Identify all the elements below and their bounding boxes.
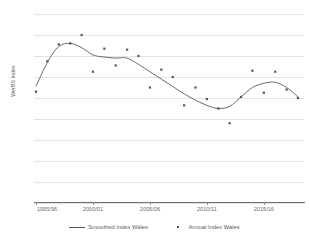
x-axis-tick (36, 202, 37, 205)
legend-label-smoothed: Smoothed Index Wales (88, 224, 148, 230)
annual-index-point (183, 104, 185, 106)
annual-index-point (103, 48, 105, 50)
legend-item-annual[interactable]: Annual Index Wales (172, 224, 240, 230)
annual-index-point (172, 76, 174, 78)
annual-index-point (286, 89, 288, 91)
annual-index-point (229, 122, 231, 124)
x-axis-tick-label: 2015/16 (254, 206, 274, 212)
legend-item-smoothed[interactable]: Smoothed Index Wales (69, 224, 148, 230)
series-layer (34, 14, 304, 203)
annual-index-point (274, 71, 276, 73)
annual-index-point (263, 92, 265, 94)
annual-index-point (206, 98, 208, 100)
y-axis-title: WerBS Index (10, 51, 16, 111)
annual-index-point (35, 91, 37, 93)
annual-index-point (160, 69, 162, 71)
annual-index-point (58, 43, 60, 45)
annual-index-point (217, 107, 219, 109)
annual-index-point (69, 42, 71, 44)
legend-label-annual: Annual Index Wales (188, 224, 239, 230)
line-marker-icon (69, 227, 85, 228)
annual-index-point (240, 96, 242, 98)
x-axis-tick-label: 2010/11 (197, 206, 217, 212)
plot-area: 020406080100120140160180 (34, 14, 304, 203)
annual-index-point (80, 34, 82, 36)
x-axis-tick (150, 202, 151, 205)
annual-index-point (126, 49, 128, 51)
annual-index-point (149, 86, 151, 88)
x-axis-tick-label: 1995/96 (37, 206, 57, 212)
x-axis-tick (93, 202, 94, 205)
annual-index-point (92, 71, 94, 73)
annual-index-point (137, 55, 139, 57)
annual-index-point (297, 97, 299, 99)
x-axis-tick (264, 202, 265, 205)
dot-marker-icon (177, 226, 179, 228)
chart-legend: Smoothed Index Wales Annual Index Wales (0, 224, 309, 230)
annual-index-point (115, 64, 117, 66)
annual-index-point (46, 60, 48, 62)
annual-index-point (194, 86, 196, 88)
x-axis-tick-label: 2000/01 (83, 206, 103, 212)
annual-index-point (251, 70, 253, 72)
smoothed-index-line (36, 43, 298, 108)
chart-container: WerBS Index 020406080100120140160180 199… (0, 0, 309, 239)
x-axis-tick-label: 2005/06 (140, 206, 160, 212)
x-axis-tick (207, 202, 208, 205)
